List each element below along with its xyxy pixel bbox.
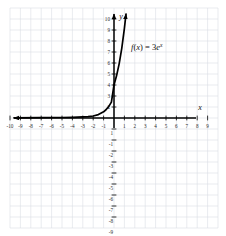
x-tick-label: -2 bbox=[91, 123, 96, 129]
y-axis-label: y bbox=[118, 12, 123, 21]
x-tick-label: 1 bbox=[123, 123, 126, 129]
x-tick-label: -4 bbox=[70, 123, 75, 129]
y-tick-label: -6 bbox=[109, 196, 114, 202]
x-tick-label: 4 bbox=[154, 123, 157, 129]
x-tick-label: 7 bbox=[186, 123, 189, 129]
exponential-function-graph: -10 -9 -8 -7 -6 -5 -4 -3 -2 -1 1 2 3 4 5… bbox=[0, 0, 226, 236]
coordinate-plane-svg: -10 -9 -8 -7 -6 -5 -4 -3 -2 -1 1 2 3 4 5… bbox=[0, 0, 226, 236]
function-label-exponent: x bbox=[159, 42, 163, 48]
y-tick-label: 9 bbox=[107, 27, 110, 33]
x-tick-label: -3 bbox=[81, 123, 86, 129]
x-tick-label: -9 bbox=[18, 123, 23, 129]
function-label-equals: = 3 bbox=[143, 42, 156, 52]
y-tick-label: 10 bbox=[105, 16, 111, 22]
y-tick-label: 7 bbox=[107, 49, 110, 55]
x-tick-label: -10 bbox=[7, 123, 14, 129]
y-tick-label: 5 bbox=[107, 71, 110, 77]
x-tick-label: -6 bbox=[49, 123, 54, 129]
y-tick-label: 8 bbox=[107, 38, 110, 44]
y-tick-label: -4 bbox=[109, 174, 114, 180]
x-axis-tick-labels: -10 -9 -8 -7 -6 -5 -4 -3 -2 -1 1 2 3 4 5… bbox=[7, 123, 210, 129]
y-tick-label: -1 bbox=[109, 141, 114, 147]
x-tick-label: 9 bbox=[206, 123, 209, 129]
x-tick-label: 6 bbox=[175, 123, 178, 129]
y-tick-label: -7 bbox=[109, 207, 114, 213]
y-tick-label: -9 bbox=[109, 229, 114, 235]
x-tick-label: -1 bbox=[101, 123, 106, 129]
x-axis-label: x bbox=[197, 103, 202, 112]
x-tick-label: -8 bbox=[29, 123, 34, 129]
y-tick-label: -2 bbox=[109, 152, 114, 158]
y-tick-label: 3 bbox=[107, 93, 110, 99]
x-tick-label: 3 bbox=[144, 123, 147, 129]
y-tick-label: -8 bbox=[109, 218, 114, 224]
y-tick-label: 4 bbox=[107, 82, 110, 88]
x-tick-label: 5 bbox=[165, 123, 168, 129]
y-tick-label: 6 bbox=[107, 60, 110, 66]
x-tick-label: 8 bbox=[196, 123, 199, 129]
y-tick-label: 1 bbox=[110, 130, 113, 136]
x-tick-label: -5 bbox=[60, 123, 65, 129]
function-label: f(x) = 3ex bbox=[131, 42, 163, 52]
x-tick-label: 2 bbox=[134, 123, 137, 129]
y-tick-label: -3 bbox=[109, 163, 114, 169]
y-axis-tick-labels: 10 9 8 7 6 5 4 3 2 1 -1 -2 -3 -4 -5 -6 -… bbox=[105, 16, 114, 235]
y-tick-label: -5 bbox=[109, 185, 114, 191]
x-tick-label: -7 bbox=[39, 123, 44, 129]
